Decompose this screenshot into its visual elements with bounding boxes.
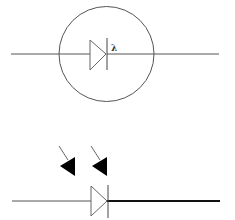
light-arrow-icon (91, 146, 107, 176)
photodiode-enclosed-symbol: λ (11, 7, 219, 102)
photodiode-arrows-symbol (12, 146, 220, 218)
wavelength-label: λ (111, 43, 117, 53)
schematic-canvas: λ (0, 0, 235, 220)
light-arrow-icon (59, 146, 75, 176)
diode-triangle-icon (91, 186, 107, 216)
diode-triangle-icon (90, 40, 106, 70)
